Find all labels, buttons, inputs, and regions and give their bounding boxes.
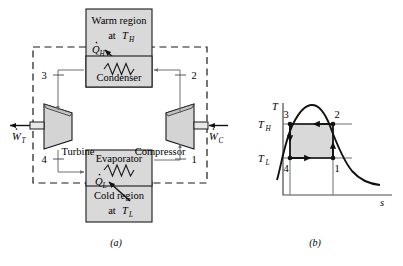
warm-region-line1: Warm region bbox=[92, 15, 148, 26]
warm-region-temp-subscript: H bbox=[128, 36, 135, 44]
cold-region-block: Cold region at T L bbox=[86, 182, 152, 222]
ts-state-label-4: 4 bbox=[283, 163, 289, 174]
cycle-area-fill bbox=[290, 124, 333, 158]
wt-dot-accent bbox=[16, 128, 18, 130]
wc-symbol: W bbox=[209, 131, 219, 142]
state-point-2: 2 bbox=[175, 70, 197, 81]
ql-subscript: L bbox=[102, 182, 107, 190]
state-label-4: 4 bbox=[41, 154, 47, 165]
condenser-label: Condenser bbox=[97, 72, 142, 83]
ts-state-label-2: 2 bbox=[334, 109, 339, 120]
wc-subscript: C bbox=[219, 137, 224, 145]
wt-symbol: W bbox=[12, 131, 22, 142]
turbine-shaft bbox=[30, 122, 44, 129]
panel-a-schematic: Warm region at T H Q H Condenser bbox=[10, 9, 228, 249]
turbine-work-annotation: W T bbox=[10, 126, 30, 146]
compressor-label: Compressor bbox=[135, 146, 186, 157]
cold-region-line2-prefix: at bbox=[108, 205, 116, 216]
turbine-device: Turbine bbox=[30, 104, 95, 157]
ts-ytick-th-subscript: H bbox=[265, 125, 272, 133]
state-label-2: 2 bbox=[191, 70, 196, 81]
wc-dot-accent bbox=[213, 128, 215, 130]
ts-ytick-tl: T L bbox=[258, 153, 270, 167]
thermodynamics-figure: Warm region at T H Q H Condenser bbox=[0, 0, 403, 266]
ts-state-dot-1 bbox=[331, 156, 336, 161]
state-point-3: 3 bbox=[41, 70, 64, 81]
ts-xlabel: s bbox=[380, 197, 384, 208]
turbine-label: Turbine bbox=[62, 146, 95, 157]
compressor-shaft bbox=[194, 122, 208, 129]
panel-a-caption: (a) bbox=[110, 237, 122, 249]
ts-state-dot-4 bbox=[288, 156, 293, 161]
warm-region-line2-prefix: at bbox=[108, 30, 116, 41]
pipe-2-to-condenser bbox=[154, 70, 180, 113]
panel-b-ts-diagram: T s T H T L bbox=[258, 101, 392, 249]
state-label-3: 3 bbox=[41, 70, 46, 81]
state-label-1: 1 bbox=[191, 154, 196, 165]
ts-state-label-3: 3 bbox=[283, 109, 288, 120]
ts-ytick-th-symbol: T bbox=[258, 119, 265, 130]
ts-ytick-th: T H bbox=[258, 119, 272, 133]
pipe-condenser-to-turbine bbox=[58, 70, 84, 110]
panel-b-caption: (b) bbox=[309, 237, 321, 249]
wt-subscript: T bbox=[22, 137, 27, 145]
ts-ytick-tl-subscript: L bbox=[265, 159, 270, 167]
compressor-device: Compressor bbox=[135, 104, 208, 157]
compressor-work-annotation: W C bbox=[209, 126, 228, 146]
cold-region-temp-subscript: L bbox=[128, 211, 133, 219]
ts-ylabel: T bbox=[272, 101, 279, 112]
ts-state-dot-2 bbox=[331, 122, 336, 127]
condenser-block: Condenser bbox=[86, 56, 152, 87]
figure-root: Warm region at T H Q H Condenser bbox=[0, 0, 403, 266]
ts-state-dot-3 bbox=[288, 122, 293, 127]
ts-state-label-1: 1 bbox=[334, 163, 339, 174]
ts-ytick-tl-symbol: T bbox=[258, 153, 265, 164]
